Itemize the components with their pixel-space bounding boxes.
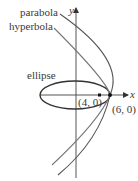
- point-4-0-label: (4, 0): [78, 96, 102, 109]
- point-6-0-label: (6, 0): [112, 103, 136, 116]
- ellipse-label: ellipse: [27, 69, 56, 81]
- vertex-point-6-0: [108, 93, 112, 97]
- y-axis-label: y: [68, 4, 74, 16]
- hyperbola-label: hyperbola: [9, 20, 53, 32]
- parabola-label: parabola: [20, 6, 58, 18]
- x-axis-label: x: [129, 88, 135, 100]
- conic-sections-diagram: parabola hyperbola ellipse y x (4, 0) (6…: [0, 0, 138, 181]
